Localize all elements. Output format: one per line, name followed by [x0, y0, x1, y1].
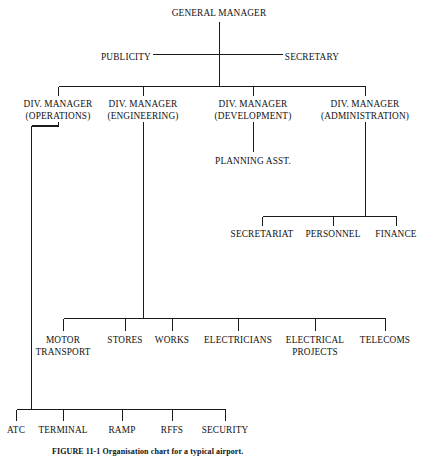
- node-div-manager-engineering: DIV. MANAGER(ENGINEERING): [107, 99, 178, 122]
- node-label: SECRETARIAT: [231, 229, 294, 239]
- node-sublabel: (ENGINEERING): [107, 111, 178, 123]
- node-div-manager-development: DIV. MANAGER(DEVELOPMENT): [215, 99, 292, 122]
- org-chart: GENERAL MANAGERPUBLICITYSECRETARYDIV. MA…: [0, 0, 431, 457]
- node-label: RFFS: [161, 425, 183, 435]
- node-label: SECRETARY: [285, 52, 339, 62]
- node-label: PLANNING ASST.: [215, 156, 291, 166]
- node-label: TELECOMS: [360, 335, 410, 345]
- node-security: SECURITY: [202, 425, 249, 437]
- node-works: WORKS: [155, 335, 189, 347]
- node-label: PERSONNEL: [305, 229, 360, 239]
- node-rffs: RFFS: [161, 425, 183, 437]
- node-label: STORES: [107, 335, 142, 345]
- node-motor-transport: MOTORTRANSPORT: [35, 335, 90, 358]
- node-label: MOTOR: [46, 335, 80, 345]
- node-label: GENERAL MANAGER: [172, 8, 267, 18]
- node-publicity: PUBLICITY: [101, 52, 151, 64]
- node-label: SECURITY: [202, 425, 249, 435]
- node-sublabel: PROJECTS: [286, 347, 344, 359]
- node-label: RAMP: [109, 425, 136, 435]
- node-stores: STORES: [107, 335, 142, 347]
- connector-lines: [0, 0, 431, 457]
- node-electricians: ELECTRICIANS: [204, 335, 272, 347]
- node-label: ELECTRICAL: [286, 335, 344, 345]
- node-sublabel: TRANSPORT: [35, 347, 90, 359]
- node-electrical-projects: ELECTRICALPROJECTS: [286, 335, 344, 358]
- node-sublabel: (DEVELOPMENT): [215, 111, 292, 123]
- node-secretariat: SECRETARIAT: [231, 229, 294, 241]
- node-personnel: PERSONNEL: [305, 229, 360, 241]
- node-ramp: RAMP: [109, 425, 136, 437]
- node-label: ELECTRICIANS: [204, 335, 272, 345]
- node-planning-asst: PLANNING ASST.: [215, 156, 291, 168]
- node-label: TERMINAL: [38, 425, 87, 435]
- node-general-manager: GENERAL MANAGER: [172, 8, 267, 20]
- node-label: DIV. MANAGER: [331, 99, 400, 109]
- node-div-manager-operations: DIV. MANAGER(OPERATIONS): [24, 99, 93, 122]
- figure-caption: FIGURE 11-1 Organisation chart for a typ…: [52, 447, 243, 456]
- node-label: PUBLICITY: [101, 52, 151, 62]
- node-label: ATC: [7, 425, 25, 435]
- node-secretary: SECRETARY: [285, 52, 339, 64]
- node-sublabel: (ADMINISTRATION): [321, 111, 409, 123]
- node-label: DIV. MANAGER: [24, 99, 93, 109]
- node-div-manager-administration: DIV. MANAGER(ADMINISTRATION): [321, 99, 409, 122]
- node-finance: FINANCE: [375, 229, 416, 241]
- node-atc: ATC: [7, 425, 25, 437]
- node-label: WORKS: [155, 335, 189, 345]
- node-label: FINANCE: [375, 229, 416, 239]
- node-label: DIV. MANAGER: [109, 99, 178, 109]
- node-sublabel: (OPERATIONS): [24, 111, 93, 123]
- node-label: DIV. MANAGER: [219, 99, 288, 109]
- node-telecoms: TELECOMS: [360, 335, 410, 347]
- node-terminal: TERMINAL: [38, 425, 87, 437]
